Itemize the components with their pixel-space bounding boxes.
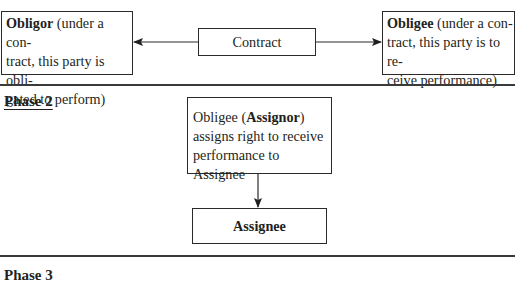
assignor-box: Obligee (Assignor) assigns right to rece… [187,97,332,174]
phase-3-heading: Phase 3 [4,267,53,284]
contract-box: Contract [198,28,316,56]
obligee-line-2: tract, this party is to re- [387,33,514,71]
obligor-box: Obligor (under a con- tract, this party … [1,11,133,75]
obligee-text-1: (under a con- [434,15,513,31]
phase-2-heading: Phase 2 [4,93,53,110]
obligor-title: Obligor [6,15,53,31]
phase-divider-1 [0,84,515,86]
assignor-line-3: performance to Assignee [193,146,331,184]
obligee-title: Obligee [387,15,434,31]
assignor-line-2: assigns right to receive [193,127,331,146]
obligee-line-1: Obligee (under a con- [387,14,514,33]
assignor-text-pre: Obligee ( [193,109,246,125]
contract-label: Contract [233,33,282,52]
phase-divider-2 [0,255,515,257]
assignee-label: Assignee [233,217,286,236]
obligor-line-1: Obligor (under a con- [6,14,132,52]
assignee-box: Assignee [192,208,327,244]
obligee-line-3: ceive performance) [387,71,514,90]
assignor-text-post: ) [300,109,305,125]
assignor-line-1: Obligee (Assignor) [193,108,331,127]
obligee-box: Obligee (under a con- tract, this party … [382,11,515,75]
assignor-title: Assignor [246,109,300,125]
